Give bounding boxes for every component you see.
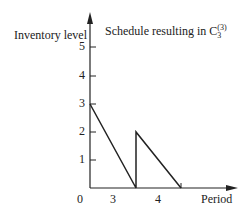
period-length-2: 4 bbox=[155, 192, 161, 207]
y-ticks bbox=[90, 47, 96, 160]
x-axis-arrow-icon bbox=[226, 185, 238, 191]
y-axis-label: Inventory level bbox=[14, 28, 87, 43]
y-tick-2: 2 bbox=[79, 124, 85, 139]
period-length-1: 3 bbox=[110, 192, 116, 207]
inventory-line bbox=[90, 104, 181, 188]
x-axis-label: Period bbox=[201, 192, 232, 207]
y-tick-1: 1 bbox=[79, 152, 85, 167]
chart-title: Schedule resulting in C3(3) bbox=[105, 23, 227, 40]
y-axis-arrow-icon bbox=[87, 12, 93, 24]
y-tick-3: 3 bbox=[79, 96, 85, 111]
y-tick-4: 4 bbox=[79, 68, 85, 83]
y-tick-5: 5 bbox=[79, 39, 85, 54]
origin-label: 0 bbox=[77, 192, 83, 207]
